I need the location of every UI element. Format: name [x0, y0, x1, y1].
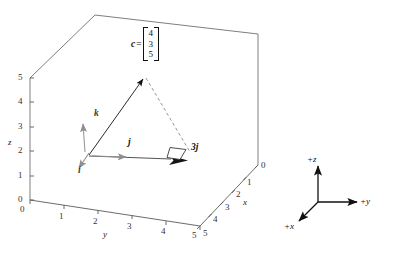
x-tick-0: 0	[261, 161, 266, 170]
z-tick-4: 4	[18, 97, 23, 106]
vector-component-1: 4	[149, 28, 154, 39]
x-axis-label: x	[243, 198, 247, 207]
x-tick-4: 4	[213, 215, 218, 224]
vector-component-2: 3	[149, 39, 154, 50]
z-axis-ticks	[30, 78, 34, 200]
bracket-left-icon	[143, 27, 148, 61]
z-tick-2: 2	[18, 146, 23, 155]
vector-component-3: 5	[149, 49, 154, 60]
basis-label-k: k	[94, 109, 99, 119]
x-tick-5: 5	[203, 229, 208, 238]
y-tick-4: 4	[161, 227, 166, 236]
triad-label-z: +z	[307, 155, 317, 164]
z-axis-label: z	[8, 138, 12, 147]
bracket-right-icon	[154, 27, 159, 61]
basis-label-i: i	[78, 166, 81, 176]
reference-triad	[299, 166, 357, 221]
figure-canvas: c = 4 3 5 k j i 3j 5 4 3 2 1 0 z 0 1 2 3…	[0, 0, 393, 256]
x-tick-1: 1	[247, 178, 252, 187]
basis-vector-j	[92, 156, 126, 157]
z-tick-3: 3	[18, 122, 23, 131]
equals-sign: =	[136, 39, 141, 49]
vector-c-dashed-projection	[146, 78, 190, 152]
triad-label-y: +y	[360, 197, 370, 206]
z-tick-0: 0	[18, 195, 23, 204]
basis-vector-k	[83, 124, 85, 152]
x-tick-3: 3	[225, 203, 230, 212]
y-tick-2: 2	[93, 217, 98, 226]
vector-c-label: c = 4 3 5	[131, 27, 159, 61]
triad-label-x: +x	[284, 222, 294, 231]
z-tick-5: 5	[18, 73, 23, 82]
column-vector-matrix: 4 3 5	[143, 27, 160, 61]
z-tick-1: 1	[18, 171, 23, 180]
y-axis-ticks	[30, 200, 200, 230]
x-tick-2: 2	[236, 190, 241, 199]
axis-lines	[30, 165, 258, 226]
basis-label-j: j	[128, 138, 131, 148]
y-tick-1: 1	[59, 212, 64, 221]
y-tick-5: 5	[192, 231, 197, 240]
y-tick-0: 0	[20, 205, 25, 214]
y-tick-3: 3	[127, 222, 132, 231]
y-axis-label: y	[103, 230, 107, 239]
vector-c-name: c	[131, 39, 135, 49]
scaled-vector-3j-label: 3j	[191, 143, 198, 153]
